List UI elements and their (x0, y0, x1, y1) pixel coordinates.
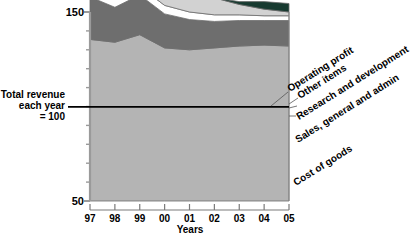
chart-container: 150 50 Total revenue each year = 100 979… (0, 0, 415, 247)
stacked-area-chart: 150 50 Total revenue each year = 100 979… (0, 0, 415, 247)
series-callout-labels: Operating profit Other items Research an… (285, 43, 411, 188)
x-tick-label-05: 05 (283, 213, 295, 224)
leader-research-development (289, 106, 297, 108)
stacked-areas (90, 0, 289, 201)
leader-other-items (289, 98, 298, 104)
x-tick-label-97: 97 (84, 213, 96, 224)
x-axis-ticks (90, 204, 289, 210)
baseline-label-line2: each year (19, 100, 65, 111)
x-tick-label-04: 04 (259, 213, 271, 224)
callout-label-cost-of-goods: Cost of goods (291, 143, 354, 188)
baseline-label-line3: = 100 (40, 111, 66, 122)
x-tick-label-98: 98 (109, 213, 121, 224)
x-tick-label-99: 99 (134, 213, 146, 224)
x-tick-label-02: 02 (209, 213, 221, 224)
x-tick-label-01: 01 (184, 213, 196, 224)
y-axis-bottom-label: 50 (72, 195, 84, 207)
x-tick-label-00: 00 (159, 213, 171, 224)
baseline-label-line1: Total revenue (1, 89, 66, 100)
x-tick-label-03: 03 (234, 213, 246, 224)
x-axis-title: Years (177, 224, 204, 235)
y-axis-top-label: 150 (66, 6, 84, 18)
x-axis-tick-labels: 979899000102030405 (84, 213, 295, 224)
baseline-label: Total revenue each year = 100 (1, 89, 66, 122)
area-cost-of-goods (90, 35, 289, 201)
